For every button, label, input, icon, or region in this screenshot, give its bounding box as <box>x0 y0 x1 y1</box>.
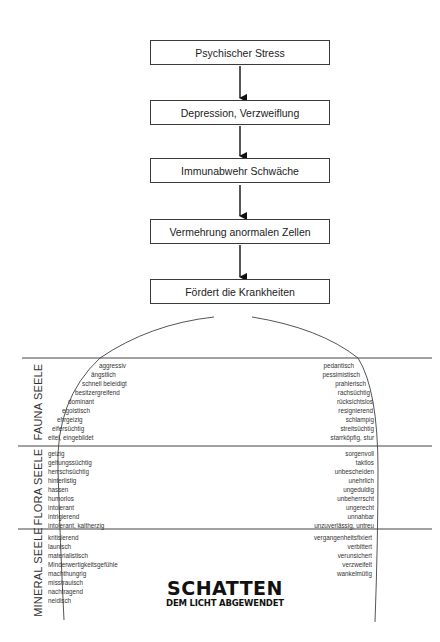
flow-box-label: Psychischer Stress <box>195 47 284 59</box>
trait: geizig <box>48 449 104 458</box>
section-label-mineral: MINERAL SEELE <box>32 520 44 624</box>
trait: intolerant, kaltherzig <box>48 521 104 530</box>
trait: humorlos <box>48 494 104 503</box>
trait: streitsüchtig <box>323 424 374 433</box>
trait: verzweifelt <box>314 560 372 569</box>
trait: pessimistisch <box>323 370 360 379</box>
trait: egoistisch <box>62 406 127 415</box>
flow-box-immunabwehr: Immunabwehr Schwäche <box>150 158 330 183</box>
trait: unehrlich <box>314 476 374 485</box>
flow-box-krankheiten: Fördert die Krankheiten <box>150 279 330 304</box>
flow-box-label: Fördert die Krankheiten <box>185 286 295 298</box>
mineral-right-list: vergangenheitsfixiert verbittert verunsi… <box>314 533 372 578</box>
trait: besitzergreifend <box>75 388 127 397</box>
trait: wankelmütig <box>314 569 372 578</box>
trait: prahlerisch <box>323 379 366 388</box>
fauna-right-list: pedantisch pessimistisch prahlerisch rac… <box>323 361 440 442</box>
trait: materialistisch <box>48 551 118 560</box>
trait: schlampig <box>323 415 374 424</box>
trait: verbittert <box>314 542 372 551</box>
trait: launisch <box>48 542 118 551</box>
schatten-subtitle: DEM LICHT ABGEWENDET <box>160 598 290 609</box>
fauna-left-list: aggressiv ängstlich schnell beleidigt be… <box>0 361 127 442</box>
trait: hassen <box>48 485 104 494</box>
trait: hinterlistig <box>48 476 104 485</box>
schatten-title: SCHATTEN <box>160 578 290 598</box>
trait: sorgenvoll <box>314 449 374 458</box>
trait: pedantisch <box>323 361 354 370</box>
trait: intrigierend <box>48 512 104 521</box>
trait: machthungrig <box>48 569 118 578</box>
trait: unbescheiden <box>314 467 374 476</box>
trait: kritisierend <box>48 533 118 542</box>
trait: herrschsüchtig <box>48 467 104 476</box>
trait: rachsüchtig <box>323 388 370 397</box>
trait: schnell beleidigt <box>82 379 127 388</box>
trait: nachtragend <box>48 587 118 596</box>
flora-left-list: geizig geltungssüchtig herrschsüchtig hi… <box>48 449 104 530</box>
trait: ungerecht <box>314 503 374 512</box>
trait: eifersüchtig <box>52 424 127 433</box>
trait: unnahbar <box>314 512 374 521</box>
schatten-title-block: SCHATTEN DEM LICHT ABGEWENDET <box>160 578 290 609</box>
trait: intolerant <box>48 503 104 512</box>
trait: unbeherrscht <box>314 494 374 503</box>
flora-right-list: sorgenvoll taktlos unbescheiden unehrlic… <box>314 449 374 530</box>
trait: ungeduldig <box>314 485 374 494</box>
trait: resignierend <box>323 406 373 415</box>
trait: verunsichert <box>314 551 372 560</box>
trait: ehrgeizig <box>57 415 127 424</box>
flow-box-depression: Depression, Verzweiflung <box>150 100 330 125</box>
flow-box-psychischer-stress: Psychischer Stress <box>150 40 330 65</box>
trait: dominant <box>68 397 127 406</box>
trait: misstrauisch <box>48 578 118 587</box>
flow-box-label: Depression, Verzweiflung <box>181 107 299 119</box>
trait: unzuverlässig, untreu <box>314 521 374 530</box>
trait: neidisch <box>48 596 118 605</box>
mineral-left-list: kritisierend launisch materialistisch Mi… <box>48 533 118 605</box>
flow-box-label: Immunabwehr Schwäche <box>181 165 299 177</box>
flow-box-vermehrung: Vermehrung anormalen Zellen <box>150 219 330 244</box>
trait: rücksichtslos <box>323 397 373 406</box>
trait: taktlos <box>314 458 374 467</box>
trait: starrköpfig, stur <box>323 433 374 442</box>
trait: vergangenheitsfixiert <box>314 533 372 542</box>
trait: aggressiv <box>99 361 127 370</box>
trait: eitel, eingebildet <box>48 433 127 442</box>
flow-box-label: Vermehrung anormalen Zellen <box>169 226 310 238</box>
trait: geltungssüchtig <box>48 458 104 467</box>
trait: ängstlich <box>91 370 127 379</box>
trait: Minderwertigkeitsgefühle <box>48 560 118 569</box>
